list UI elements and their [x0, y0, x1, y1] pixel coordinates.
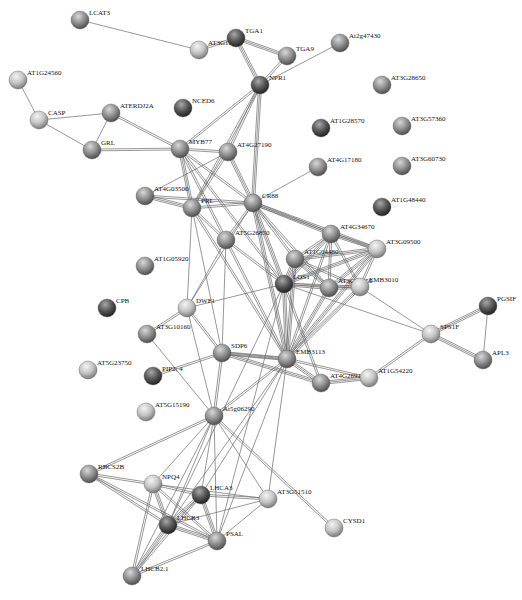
node-sphere-icon[interactable] [368, 240, 386, 258]
node-at1g05920[interactable]: AT1G05920 [136, 255, 189, 275]
node-sphere-icon[interactable] [183, 199, 201, 217]
node-myb77[interactable]: MYB77 [171, 138, 212, 158]
node-at4g26910[interactable]: AT4G26910 [312, 372, 365, 392]
node-label: TGA1 [245, 27, 263, 35]
node-sphere-icon[interactable] [325, 519, 343, 537]
node-sphere-icon[interactable] [123, 567, 141, 585]
node-nced6[interactable]: NCED6 [174, 97, 215, 117]
node-apl3[interactable]: APL3 [474, 349, 509, 369]
node-sphere-icon[interactable] [9, 71, 27, 89]
node-lhcb2_1[interactable]: LHCB2.1 [123, 565, 169, 585]
node-sphere-icon[interactable] [422, 325, 440, 343]
node-label: CPB [116, 297, 130, 305]
node-sphere-icon[interactable] [251, 76, 269, 94]
node-sphere-icon[interactable] [322, 225, 340, 243]
node-sphere-icon[interactable] [393, 117, 411, 135]
node-sphere-icon[interactable] [102, 104, 120, 122]
node-pgsif[interactable]: PGSIF [479, 295, 516, 315]
node-aterdj2a[interactable]: ATERDJ2A [102, 102, 154, 122]
node-sphere-icon[interactable] [312, 119, 330, 137]
node-sphere-icon[interactable] [393, 157, 411, 175]
node-sphere-icon[interactable] [138, 325, 156, 343]
node-sphere-icon[interactable] [219, 143, 237, 161]
node-sphere-icon[interactable] [360, 369, 378, 387]
node-at2g47430[interactable]: At2g47430 [331, 32, 381, 52]
node-pip2_4[interactable]: PIP2; 4 [144, 365, 183, 385]
node-sphere-icon[interactable] [259, 490, 277, 508]
node-dwf1[interactable]: DWF1 [178, 297, 216, 317]
node-sphere-icon[interactable] [144, 367, 162, 385]
node-sphere-icon[interactable] [83, 141, 101, 159]
node-sphere-icon[interactable] [331, 34, 349, 52]
node-sphere-icon[interactable] [98, 299, 116, 317]
node-sphere-icon[interactable] [205, 407, 223, 425]
node-label: AT1G05920 [154, 255, 189, 263]
node-at3g60730[interactable]: AT3G60730 [393, 155, 446, 175]
node-sphere-icon[interactable] [159, 516, 177, 534]
node-sphere-icon[interactable] [227, 29, 245, 47]
node-label: LOS1 [293, 273, 310, 281]
node-sphere-icon[interactable] [30, 111, 48, 129]
node-label: AT1G24560 [27, 69, 62, 77]
node-sphere-icon[interactable] [213, 344, 231, 362]
node-sphere-icon[interactable] [217, 231, 235, 249]
node-sphere-icon[interactable] [312, 374, 330, 392]
node-emb3010[interactable]: EMB3010 [351, 276, 399, 296]
node-label: LHCA3 [210, 484, 233, 492]
node-sphere-icon[interactable] [174, 99, 192, 117]
node-label: GRL [101, 139, 115, 147]
node-sphere-icon[interactable] [178, 299, 196, 317]
node-sphere-icon[interactable] [136, 257, 154, 275]
node-at3g28650[interactable]: AT3G28650 [373, 74, 426, 94]
node-lhca3[interactable]: LHCA3 [192, 484, 233, 504]
node-at1g54220[interactable]: AT1G54220 [360, 367, 413, 387]
node-sphere-icon[interactable] [79, 361, 97, 379]
node-sphere-icon[interactable] [144, 475, 162, 493]
node-at4g27190[interactable]: AT4G27190 [219, 141, 272, 161]
node-label: EMB3113 [296, 348, 325, 356]
node-sps1f[interactable]: SPS1F [422, 323, 459, 343]
node-cysd1[interactable]: CYSD1 [325, 517, 366, 537]
node-sphere-icon[interactable] [278, 350, 296, 368]
node-at5g23750[interactable]: AT5G23750 [79, 359, 132, 379]
node-sphere-icon[interactable] [278, 47, 296, 65]
node-at3g51510[interactable]: AT3G51510 [259, 488, 312, 508]
node-sphere-icon[interactable] [71, 11, 89, 29]
node-sphere-icon[interactable] [373, 198, 391, 216]
node-sphere-icon[interactable] [474, 351, 492, 369]
node-at1g28570[interactable]: AT1G28570 [312, 117, 365, 137]
node-label: NCED6 [192, 97, 215, 105]
node-sphere-icon[interactable] [171, 140, 189, 158]
node-at1g24560[interactable]: AT1G24560 [9, 69, 62, 89]
node-sphere-icon[interactable] [190, 41, 208, 59]
node-sphere-icon[interactable] [373, 76, 391, 94]
edge-LCAT3-AT3G10250 [80, 20, 199, 50]
node-sphere-icon[interactable] [208, 532, 226, 550]
node-psal[interactable]: PSAL [208, 530, 243, 550]
node-cpb[interactable]: CPB [98, 297, 130, 317]
node-sphere-icon[interactable] [351, 278, 369, 296]
node-sphere-icon[interactable] [479, 297, 497, 315]
node-at3g10160[interactable]: AT3G10160 [138, 323, 191, 343]
node-tga9[interactable]: TGA9 [278, 45, 314, 65]
node-at1g48440[interactable]: AT1G48440 [373, 196, 426, 216]
node-sphere-icon[interactable] [136, 187, 154, 205]
node-sphere-icon[interactable] [192, 486, 210, 504]
node-sphere-icon[interactable] [80, 465, 98, 483]
node-sphere-icon[interactable] [320, 279, 338, 297]
node-casp[interactable]: CASP [30, 109, 66, 129]
node-at3g09500[interactable]: AT3G09500 [368, 238, 421, 258]
node-lhcb3[interactable]: LHCB3 [159, 514, 200, 534]
node-label: CASP [48, 109, 66, 117]
node-label: LHCB3 [177, 514, 200, 522]
node-at3g57360[interactable]: AT3G57360 [393, 115, 446, 135]
node-npr1[interactable]: NPR1 [251, 74, 287, 94]
node-at5g15190[interactable]: AT5G15190 [137, 401, 190, 421]
node-sphere-icon[interactable] [137, 403, 155, 421]
node-sphere-icon[interactable] [309, 158, 327, 176]
node-sphere-icon[interactable] [275, 275, 293, 293]
node-sphere-icon[interactable] [286, 250, 304, 268]
node-label: APL3 [492, 349, 509, 357]
node-sphere-icon[interactable] [244, 194, 262, 212]
node-at4g17180[interactable]: AT4G17180 [309, 156, 362, 176]
